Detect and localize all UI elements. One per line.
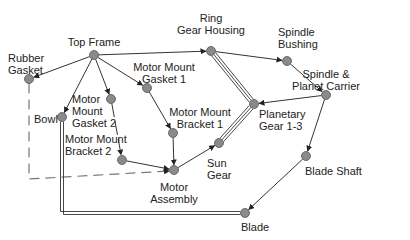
label-motor-mount-gasket-2: MotorMountGasket 2 (72, 93, 116, 129)
edge-triple (216, 53, 253, 99)
edge-arrow (173, 137, 174, 165)
edge-arrow (308, 99, 325, 151)
label-motor-mount-bracket-2: Motor MountBracket 2 (65, 133, 127, 157)
label-motor-mount-bracket-1: Motor MountBracket 1 (169, 106, 231, 130)
node-blade-shaft (302, 152, 311, 161)
edge-triple (212, 56, 249, 102)
node-sun-gear (215, 139, 224, 148)
node-spindle-bushing (283, 57, 292, 66)
edge-arrow (149, 92, 170, 129)
label-top-frame: Top Frame (68, 36, 121, 48)
node-ring-gear-housing (207, 47, 216, 56)
label-rubber-gasket: RubberGasket (8, 52, 44, 76)
edge-arrow (98, 51, 206, 55)
label-sun-gear: SunGear (207, 157, 231, 181)
edge-triple (214, 54, 251, 100)
node-planetary-gear (250, 100, 259, 109)
label-blade: Blade (241, 221, 269, 233)
label-spindle-planet-carrier: Spindle &Planet Carrier (292, 68, 360, 92)
edge-arrow (126, 161, 169, 169)
node-blade (241, 209, 250, 218)
edge-arrow (249, 159, 303, 210)
label-planetary-gear: PlanetaryGear 1-3 (259, 108, 305, 132)
edge-arrow (215, 52, 282, 61)
assembly-diagram: Top FrameRubberGasketRingGear HousingSpi… (0, 0, 410, 240)
node-bowl (58, 113, 67, 122)
node-top-frame (90, 51, 99, 60)
label-ring-gear-housing: RingGear Housing (177, 12, 245, 36)
label-spindle-bushing: SpindleBushing (278, 26, 318, 50)
label-bowl: Bowl (34, 113, 58, 125)
edge-arrow (259, 96, 322, 104)
label-motor-assembly: MotorAssembly (150, 181, 198, 205)
edge-arrow (96, 59, 110, 94)
label-motor-mount-gasket-1: Motor MountGasket 1 (133, 61, 195, 85)
label-blade-shaft: Blade Shaft (305, 165, 362, 177)
node-motor-assembly (170, 166, 179, 175)
